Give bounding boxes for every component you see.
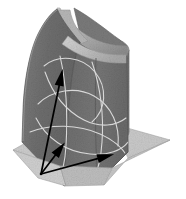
vectors-origin-point (40, 173, 43, 176)
geometry-figure (0, 0, 186, 199)
base-plane-front-center (60, 166, 112, 186)
figure-container: Cusp catastrophe surface with cylinder a… (0, 0, 186, 199)
